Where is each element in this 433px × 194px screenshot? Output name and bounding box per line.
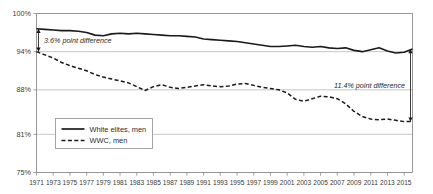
- x-tick-label: 2005: [313, 179, 328, 186]
- x-tick-label: 2003: [297, 179, 312, 186]
- legend-label-white-elites-men: White elites, men: [90, 125, 147, 134]
- x-tick-label: 2007: [330, 179, 345, 186]
- chart-legend: White elites, menWWC, men: [56, 119, 153, 149]
- y-tick-label: 81%: [17, 130, 32, 139]
- x-tick-label: 1973: [46, 179, 61, 186]
- x-tick-label: 2015: [397, 179, 412, 186]
- legend-label-wwc-men: WWC, men: [90, 136, 128, 145]
- y-tick-label: 100%: [13, 9, 32, 18]
- x-tick-label: 1997: [246, 179, 261, 186]
- y-tick-label: 88%: [17, 85, 32, 94]
- x-tick-label: 1987: [163, 179, 178, 186]
- x-tick-label: 1971: [29, 179, 44, 186]
- y-tick-label: 94%: [17, 47, 32, 56]
- left-gap-annotation-label: 3.6% point difference: [44, 36, 112, 45]
- x-tick-label: 2009: [347, 179, 362, 186]
- x-tick-label: 1979: [96, 179, 111, 186]
- x-tick-label: 1989: [180, 179, 195, 186]
- x-tick-label: 1977: [79, 179, 94, 186]
- x-tick-label: 1983: [129, 179, 144, 186]
- chart-background: [0, 0, 433, 194]
- x-tick-label: 1981: [113, 179, 128, 186]
- x-tick-label: 1985: [146, 179, 161, 186]
- x-tick-label: 1991: [196, 179, 211, 186]
- y-tick-label: 75%: [17, 168, 32, 177]
- x-tick-label: 1975: [63, 179, 78, 186]
- right-gap-annotation-label: 11.4% point difference: [334, 81, 405, 90]
- x-tick-label: 1993: [213, 179, 228, 186]
- x-tick-label: 2013: [380, 179, 395, 186]
- x-tick-label: 2011: [364, 179, 379, 186]
- x-tick-label: 2001: [280, 179, 295, 186]
- chart-container: 100%94%88%81%75% 19711973197519771979198…: [0, 0, 433, 194]
- line-chart: 100%94%88%81%75% 19711973197519771979198…: [0, 0, 433, 194]
- x-tick-label: 1995: [230, 179, 245, 186]
- x-tick-label: 1999: [263, 179, 278, 186]
